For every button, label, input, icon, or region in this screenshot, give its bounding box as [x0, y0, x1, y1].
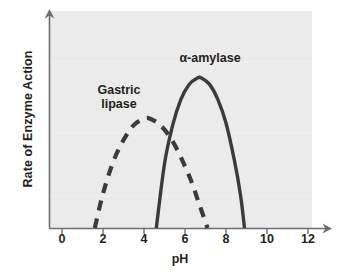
x-tick-label-6: 6	[173, 232, 197, 246]
x-tick-label-8: 8	[214, 232, 238, 246]
x-tick-label-4: 4	[132, 232, 156, 246]
y-axis-title: Rate of Enzyme Action	[21, 14, 35, 224]
series-label-alpha-amylase: α-amylase	[168, 51, 252, 65]
x-tick-label-0: 0	[50, 232, 74, 246]
x-tick-label-2: 2	[91, 232, 115, 246]
series-label-gastric-lipase: Gastric lipase	[86, 83, 152, 111]
x-tick-label-12: 12	[296, 232, 320, 246]
x-axis-title: pH	[49, 252, 311, 266]
enzyme-activity-chart: Rate of Enzyme Action pH 0 2 4 6 8 10 12…	[0, 0, 345, 279]
x-tick-label-10: 10	[255, 232, 279, 246]
